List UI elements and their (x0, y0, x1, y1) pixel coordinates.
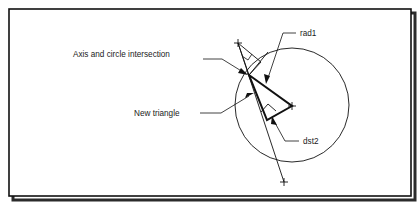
label-rad1: rad1 (300, 29, 317, 38)
label-new-triangle: New triangle (134, 109, 180, 118)
figure-frame (9, 9, 411, 196)
technical-diagram: Axis and circle intersection rad1 New tr… (0, 0, 419, 208)
label-axis-and-circle-intersection: Axis and circle intersection (73, 50, 170, 59)
figure-page: Axis and circle intersection rad1 New tr… (0, 0, 419, 208)
label-dst2: dst2 (303, 137, 319, 146)
